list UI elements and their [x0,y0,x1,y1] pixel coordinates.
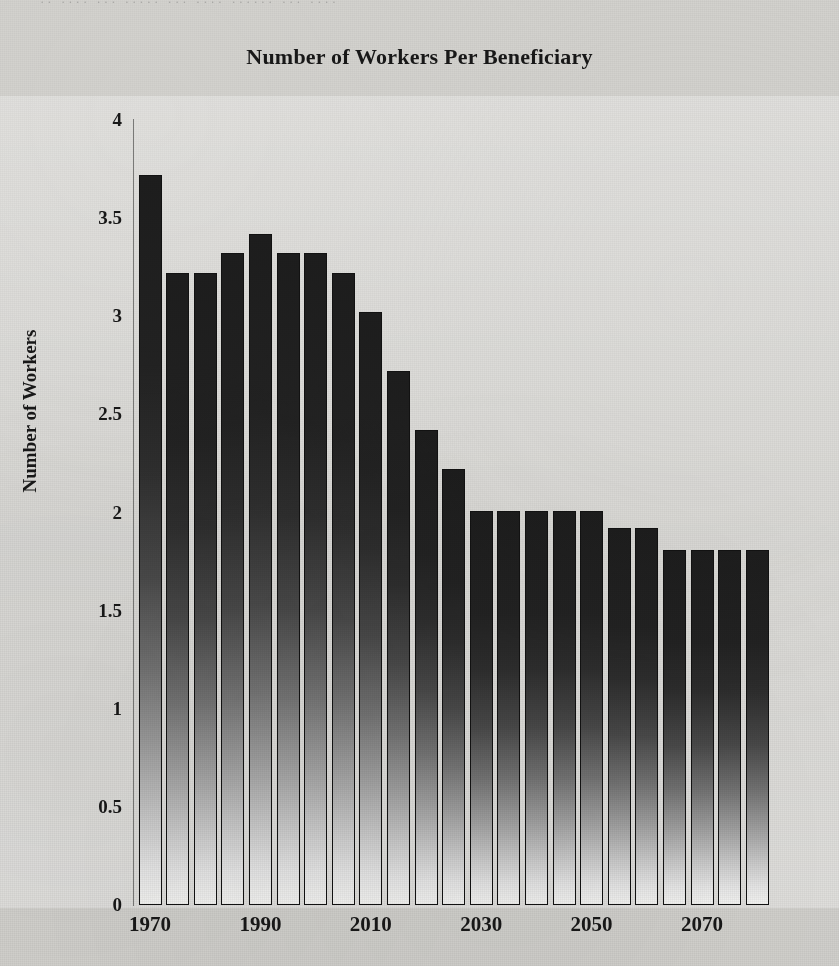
x-axis-tick-label: 2050 [552,912,632,937]
x-axis-tick-label: 1990 [220,912,300,937]
x-axis-tick-label: 1970 [110,912,190,937]
chart-plot-area: Number of Workers 00.511.522.533.54 1970… [0,0,839,966]
x-axis-tick-label: 2030 [441,912,521,937]
chart-title: Number of Workers Per Beneficiary [0,44,839,70]
x-axis-tick-label: 2010 [331,912,411,937]
x-axis-tick-label: 2070 [662,912,742,937]
x-axis-tick-labels: 197019902010203020502070 [0,0,839,966]
